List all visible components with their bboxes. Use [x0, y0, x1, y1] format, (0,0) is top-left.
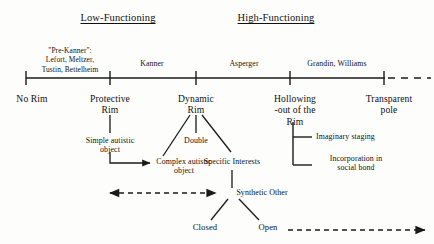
pole-label-hollowing-out: Hollowing -out of the Rim [274, 93, 316, 127]
era-label-pre-kanner: "Pre-Kanner": Lefort, Meltzer, Tustin, B… [42, 46, 99, 74]
hollowing-out-bracket [293, 122, 312, 165]
synthetic-other-branch [211, 199, 259, 220]
heading-low-functioning: Low-Functioning [81, 12, 156, 24]
pole-label-transparent-pole: Transparent pole [366, 93, 413, 116]
node-incorporation-social-bond: Incorporation in social bond [330, 154, 383, 173]
node-synthetic-other: Synthetic Other [236, 188, 287, 197]
node-closed: Closed [193, 222, 217, 232]
era-label-asperger: Asperger [229, 60, 258, 69]
node-simple-autistic-object: Simple autistic object [86, 136, 135, 155]
node-imaginary-staging: Imaginary staging [316, 132, 375, 141]
era-label-kanner: Kanner [140, 60, 164, 69]
pole-label-dynamic-rim: Dynamic Rim [178, 93, 214, 116]
node-specific-interests: Specific Interests [204, 157, 260, 166]
autism-rim-spectrum-diagram: Low-Functioning High-Functioning "Pre-Ka… [0, 0, 434, 244]
era-label-grandin-williams: Grandin, Williams [307, 60, 366, 69]
pole-label-no-rim: No Rim [16, 93, 47, 104]
diagram-linework [0, 0, 434, 244]
node-open: Open [258, 222, 277, 232]
heading-high-functioning: High-Functioning [238, 12, 315, 24]
pole-label-protective-rim: Protective Rim [90, 93, 130, 116]
node-double: Double [184, 136, 208, 145]
